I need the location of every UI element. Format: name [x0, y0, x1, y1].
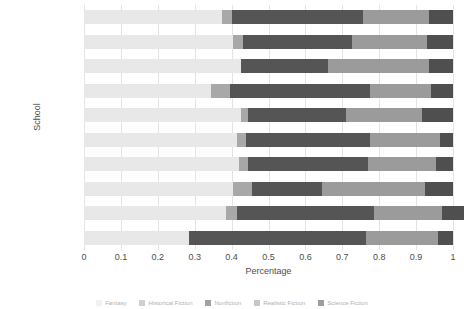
- bar-segment[interactable]: [370, 84, 431, 98]
- legend-swatch-icon: [139, 300, 145, 306]
- table-row: [84, 177, 453, 202]
- bar-segment[interactable]: [84, 35, 233, 49]
- legend-swatch-icon: [318, 300, 324, 306]
- bar-segment[interactable]: [84, 133, 237, 147]
- bar-segment[interactable]: [436, 157, 453, 171]
- bar-segment[interactable]: [84, 157, 239, 171]
- legend-item[interactable]: Realistic Fiction: [254, 300, 305, 306]
- legend-item[interactable]: Science Fiction: [318, 300, 368, 306]
- bar-segment[interactable]: [429, 10, 453, 24]
- bar-segment[interactable]: [84, 108, 241, 122]
- stacked-bar[interactable]: [84, 10, 453, 24]
- bar-segment[interactable]: [422, 108, 453, 122]
- bar-segment[interactable]: [84, 182, 233, 196]
- x-axis-tick-labels: 00.10.20.30.40.50.60.70.80.91: [84, 252, 453, 266]
- legend-label: Historical Fiction: [148, 300, 192, 306]
- x-axis-tick-label: 1: [450, 252, 455, 262]
- table-row: [84, 226, 453, 251]
- bar-segment[interactable]: [363, 10, 429, 24]
- bar-segment[interactable]: [211, 84, 229, 98]
- bar-segment[interactable]: [248, 108, 346, 122]
- table-row: [84, 5, 453, 30]
- x-axis-tick-label: 0.3: [188, 252, 201, 262]
- table-row: [84, 103, 453, 128]
- legend-item[interactable]: Nonfiction: [205, 300, 241, 306]
- plot-area: [84, 5, 453, 250]
- bar-segment[interactable]: [237, 206, 374, 220]
- bar-segment[interactable]: [328, 59, 429, 73]
- bar-segment[interactable]: [232, 10, 363, 24]
- bar-segment[interactable]: [243, 35, 352, 49]
- legend-label: Realistic Fiction: [263, 300, 305, 306]
- legend-label: Fantasy: [105, 300, 126, 306]
- bar-segment[interactable]: [442, 206, 464, 220]
- bar-segment[interactable]: [84, 84, 211, 98]
- legend-swatch-icon: [205, 300, 211, 306]
- x-axis-tick-label: 0.9: [410, 252, 423, 262]
- bar-segment[interactable]: [84, 59, 241, 73]
- bar-segment[interactable]: [440, 133, 453, 147]
- table-row: [84, 30, 453, 55]
- legend-swatch-icon: [96, 300, 102, 306]
- bar-segment[interactable]: [246, 133, 370, 147]
- legend-item[interactable]: Fantasy: [96, 300, 126, 306]
- x-axis-tick-label: 0.5: [262, 252, 275, 262]
- bar-segment[interactable]: [241, 108, 248, 122]
- bar-segment[interactable]: [346, 108, 422, 122]
- stacked-bar[interactable]: [84, 108, 453, 122]
- bar-segment[interactable]: [431, 84, 453, 98]
- stacked-bar[interactable]: [84, 206, 453, 220]
- stacked-bar[interactable]: [84, 35, 453, 49]
- table-row: [84, 128, 453, 153]
- bar-segment[interactable]: [230, 84, 370, 98]
- stacked-bar[interactable]: [84, 157, 453, 171]
- x-axis-title: Percentage: [84, 266, 453, 276]
- table-row: [84, 201, 453, 226]
- bar-segment[interactable]: [239, 157, 248, 171]
- legend-item[interactable]: Historical Fiction: [139, 300, 192, 306]
- bar-segment[interactable]: [366, 231, 438, 245]
- bar-segment[interactable]: [368, 157, 436, 171]
- x-axis-tick-label: 0.4: [225, 252, 238, 262]
- bar-segment[interactable]: [352, 35, 428, 49]
- bar-segment[interactable]: [425, 182, 453, 196]
- x-axis-tick-label: 0: [81, 252, 86, 262]
- bar-segment[interactable]: [370, 133, 440, 147]
- bar-segment[interactable]: [237, 133, 246, 147]
- bar-segment[interactable]: [438, 231, 453, 245]
- x-axis-tick-label: 0.7: [336, 252, 349, 262]
- bar-segment[interactable]: [84, 231, 189, 245]
- bar-segment[interactable]: [252, 182, 322, 196]
- x-axis-tick-label: 0.2: [152, 252, 165, 262]
- stacked-bar[interactable]: [84, 59, 453, 73]
- stacked-bar[interactable]: [84, 231, 453, 245]
- legend-label: Nonfiction: [214, 300, 241, 306]
- bar-segment[interactable]: [374, 206, 442, 220]
- bar-segment[interactable]: [429, 59, 453, 73]
- stacked-bar-chart: School West CNortheast CSouthwest BNorth…: [0, 0, 464, 309]
- legend-swatch-icon: [254, 300, 260, 306]
- bar-segment[interactable]: [322, 182, 425, 196]
- bar-segment[interactable]: [84, 206, 226, 220]
- bar-segment[interactable]: [233, 182, 251, 196]
- bar-rows: [84, 5, 453, 250]
- chart-legend: FantasyHistorical FictionNonfictionReali…: [0, 296, 464, 309]
- stacked-bar[interactable]: [84, 133, 453, 147]
- table-row: [84, 152, 453, 177]
- x-axis-tick-label: 0.6: [299, 252, 312, 262]
- stacked-bar[interactable]: [84, 182, 453, 196]
- x-axis-tick-label: 0.8: [373, 252, 386, 262]
- x-axis-tick-label: 0.1: [115, 252, 128, 262]
- y-axis-title: School: [32, 82, 42, 152]
- table-row: [84, 54, 453, 79]
- bar-segment[interactable]: [248, 157, 368, 171]
- bar-segment[interactable]: [427, 35, 453, 49]
- bar-segment[interactable]: [241, 59, 328, 73]
- bar-segment[interactable]: [233, 35, 242, 49]
- bar-segment[interactable]: [189, 231, 366, 245]
- stacked-bar[interactable]: [84, 84, 453, 98]
- bar-segment[interactable]: [226, 206, 237, 220]
- table-row: [84, 79, 453, 104]
- bar-segment[interactable]: [222, 10, 231, 24]
- bar-segment[interactable]: [84, 10, 222, 24]
